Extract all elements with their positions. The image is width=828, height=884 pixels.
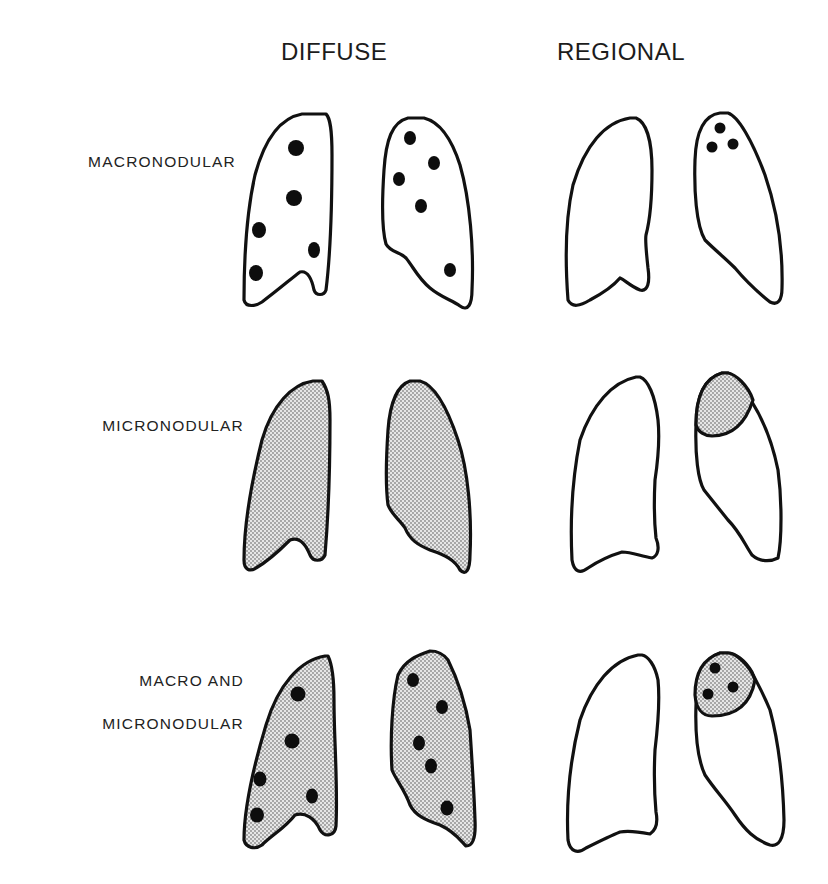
left-lung-stippled: [387, 381, 471, 572]
nodule-icon: [413, 736, 425, 751]
lung-diagram: [0, 0, 828, 884]
right-lung-outline: [568, 655, 659, 851]
right-lung-outline: [566, 118, 652, 305]
panel-mixed-regional: [568, 653, 785, 851]
panel-macronodular-regional: [566, 113, 782, 305]
nodule-icon: [444, 263, 456, 277]
panel-macronodular-diffuse: [244, 114, 473, 308]
nodule-icon: [428, 156, 440, 170]
nodule-icon: [425, 759, 437, 774]
nodule-icon: [291, 687, 306, 702]
left-lung-outline: [695, 113, 782, 303]
nodule-icon: [728, 682, 739, 693]
panel-micronodular-diffuse: [244, 381, 471, 572]
nodule-icon: [306, 789, 318, 804]
nodule-icon: [286, 190, 302, 206]
nodule-icon: [710, 663, 721, 674]
nodule-icon: [249, 265, 263, 281]
nodule-icon: [415, 199, 427, 213]
nodule-icon: [407, 673, 419, 687]
right-lung-outline: [571, 377, 659, 571]
panel-micronodular-regional: [571, 373, 781, 571]
nodule-icon: [404, 131, 416, 145]
left-lung-stippled: [391, 651, 475, 846]
nodule-icon: [441, 801, 454, 816]
nodule-icon: [715, 123, 726, 134]
nodule-icon: [254, 772, 267, 787]
nodule-icon: [308, 242, 320, 258]
nodule-icon: [285, 734, 300, 749]
nodule-icon: [393, 172, 405, 186]
nodule-icon: [728, 139, 739, 150]
nodule-icon: [707, 142, 718, 153]
nodule-icon: [288, 140, 304, 156]
nodule-icon: [252, 222, 266, 238]
nodule-icon: [250, 808, 264, 823]
nodule-icon: [436, 700, 448, 714]
left-lung-outline: [383, 118, 473, 308]
right-lung-stippled: [244, 381, 330, 570]
panel-mixed-diffuse: [244, 651, 475, 848]
nodule-icon: [703, 689, 714, 700]
